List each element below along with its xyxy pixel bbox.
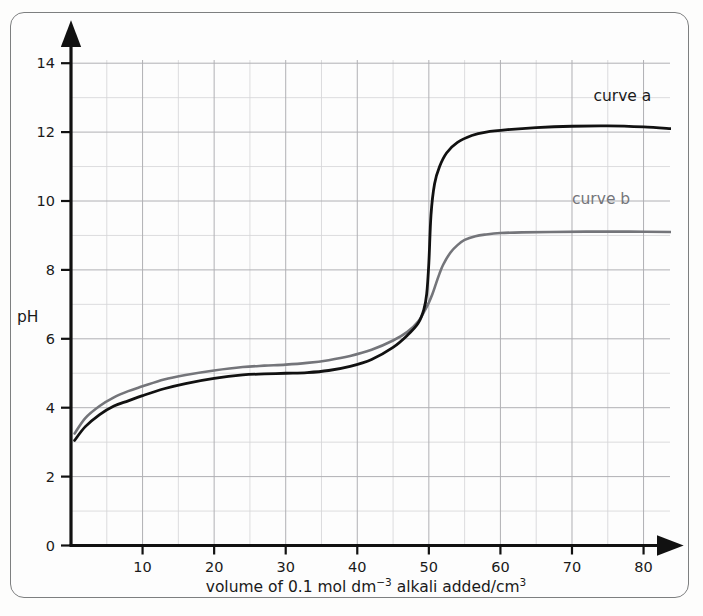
curve-a-line — [75, 126, 673, 441]
x-axis-title-seg1: volume of 0.1 mol dm — [206, 578, 377, 596]
x-tick-label: 40 — [348, 559, 366, 575]
y-tick-label: 2 — [46, 469, 55, 485]
y-tick-label: 8 — [46, 262, 55, 278]
x-axis-title-sup1: −3 — [376, 576, 391, 588]
y-tick-label: 0 — [46, 538, 55, 554]
x-tick-label: 10 — [133, 559, 151, 575]
curve-a-label: curve a — [593, 87, 651, 105]
chart-figure: 02468101214 1020304050607080 pH volume o… — [0, 0, 703, 616]
y-tick-label: 14 — [37, 55, 55, 71]
x-axis-tick-labels: 1020304050607080 — [133, 559, 652, 575]
x-tick-label: 50 — [420, 559, 438, 575]
x-tick-label: 20 — [205, 559, 223, 575]
x-axis-title-seg2: alkali added/cm — [392, 578, 520, 596]
curve-b-label: curve b — [572, 190, 630, 208]
x-axis-title: volume of 0.1 mol dm−3 alkali added/cm3 — [206, 576, 527, 596]
y-axis-title: pH — [17, 308, 39, 326]
y-tick-label: 12 — [37, 124, 55, 140]
y-tick-label: 4 — [46, 400, 55, 416]
y-tick-label: 6 — [46, 331, 55, 347]
y-axis-tick-labels: 02468101214 — [37, 55, 55, 553]
ph-titration-chart: 02468101214 1020304050607080 pH volume o… — [0, 0, 703, 616]
grid-minor-lines — [71, 60, 670, 546]
grid-major-lines — [71, 60, 670, 546]
x-tick-label: 60 — [491, 559, 509, 575]
x-axis-title-sup2: 3 — [520, 576, 527, 588]
curve-b-line — [75, 232, 673, 434]
x-tick-label: 30 — [276, 559, 294, 575]
x-tick-label: 70 — [563, 559, 581, 575]
x-tick-label: 80 — [634, 559, 652, 575]
y-tick-label: 10 — [37, 193, 55, 209]
